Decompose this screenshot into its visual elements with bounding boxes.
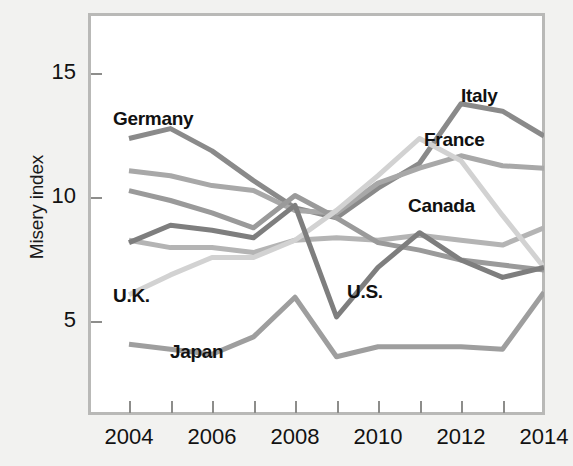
series-label-canada: Canada <box>408 195 475 217</box>
series-label-uk: U.K. <box>113 285 150 307</box>
series-label-france: France <box>424 129 485 151</box>
series-label-japan: Japan <box>170 341 223 363</box>
series-label-italy: Italy <box>461 85 498 107</box>
series-label-germany: Germany <box>113 108 193 130</box>
series-label-us: U.S. <box>347 281 383 303</box>
series-line-canada <box>129 228 544 253</box>
